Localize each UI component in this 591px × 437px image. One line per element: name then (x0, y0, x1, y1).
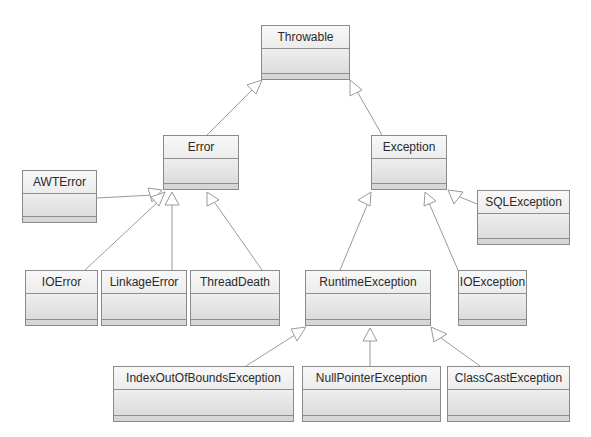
edge-ioexception-exception (429, 203, 458, 270)
edge-exception-throwable (354, 86, 382, 135)
hollow-triangle-arrow-icon (431, 327, 447, 342)
edge-runtimeexception-exception (340, 203, 368, 270)
class-name: AWTError (23, 171, 96, 194)
class-box-ioerror[interactable]: IOError (25, 270, 98, 326)
attributes-compartment (262, 49, 349, 74)
class-box-linkageerror[interactable]: LinkageError (101, 270, 187, 326)
operations-compartment (459, 320, 526, 325)
class-box-error[interactable]: Error (163, 135, 239, 190)
attributes-compartment (448, 390, 569, 416)
attributes-compartment (26, 294, 97, 320)
edge-threaddeath-error (215, 203, 262, 270)
attributes-compartment (303, 390, 440, 416)
class-name: LinkageError (102, 271, 186, 294)
attributes-compartment (191, 294, 279, 320)
attributes-compartment (478, 214, 569, 239)
hollow-triangle-arrow-icon (291, 327, 306, 341)
class-box-exception[interactable]: Exception (371, 135, 447, 190)
class-name: Error (164, 136, 238, 159)
class-name: IOException (459, 271, 526, 294)
attributes-compartment (102, 294, 186, 320)
hollow-triangle-arrow-icon (207, 192, 219, 206)
hollow-triangle-arrow-icon (350, 80, 362, 96)
class-box-classcastexception[interactable]: ClassCastException (447, 366, 570, 422)
operations-compartment (306, 320, 430, 325)
class-box-threaddeath[interactable]: ThreadDeath (190, 270, 280, 326)
class-name: ThreadDeath (191, 271, 279, 294)
operations-compartment (191, 320, 279, 325)
attributes-compartment (114, 390, 293, 416)
edge-awterror-error (97, 195, 153, 198)
class-box-awterror[interactable]: AWTError (22, 170, 97, 223)
edge-cce-runtimeexception (441, 338, 480, 366)
operations-compartment (26, 320, 97, 325)
class-box-ioexception[interactable]: IOException (458, 270, 527, 326)
class-name: RuntimeException (306, 271, 430, 294)
hollow-triangle-arrow-icon (363, 328, 377, 341)
operations-compartment (448, 416, 569, 421)
hollow-triangle-arrow-icon (247, 80, 262, 94)
hollow-triangle-arrow-icon (358, 192, 371, 206)
operations-compartment (102, 320, 186, 325)
edge-sqlexception-exception (460, 197, 477, 204)
class-name: Exception (372, 136, 446, 159)
class-box-nullpointerexception[interactable]: NullPointerException (302, 366, 441, 422)
edge-ioobe-runtimeexception (246, 333, 298, 366)
class-name: IndexOutOfBoundsException (114, 367, 293, 390)
operations-compartment (303, 416, 440, 421)
operations-compartment (114, 416, 293, 421)
hollow-triangle-arrow-icon (424, 192, 436, 206)
hollow-triangle-arrow-icon (165, 192, 179, 205)
class-box-indexoutofboundsexception[interactable]: IndexOutOfBoundsException (113, 366, 294, 422)
attributes-compartment (164, 159, 238, 184)
attributes-compartment (372, 159, 446, 184)
class-box-sqlexception[interactable]: SQLException (477, 190, 570, 245)
class-name: Throwable (262, 26, 349, 49)
class-box-throwable[interactable]: Throwable (261, 25, 350, 80)
class-diagram-canvas: Throwable Error Exception AWTError SQLEx… (0, 0, 591, 437)
operations-compartment (478, 239, 569, 244)
attributes-compartment (306, 294, 430, 320)
attributes-compartment (459, 294, 526, 320)
class-name: SQLException (478, 191, 569, 214)
operations-compartment (262, 74, 349, 79)
edge-error-throwable (207, 85, 257, 135)
class-name: ClassCastException (448, 367, 569, 390)
operations-compartment (372, 184, 446, 189)
class-name: NullPointerException (303, 367, 440, 390)
attributes-compartment (23, 194, 96, 217)
class-name: IOError (26, 271, 97, 294)
operations-compartment (164, 184, 238, 189)
operations-compartment (23, 217, 96, 222)
class-box-runtimeexception[interactable]: RuntimeException (305, 270, 431, 326)
